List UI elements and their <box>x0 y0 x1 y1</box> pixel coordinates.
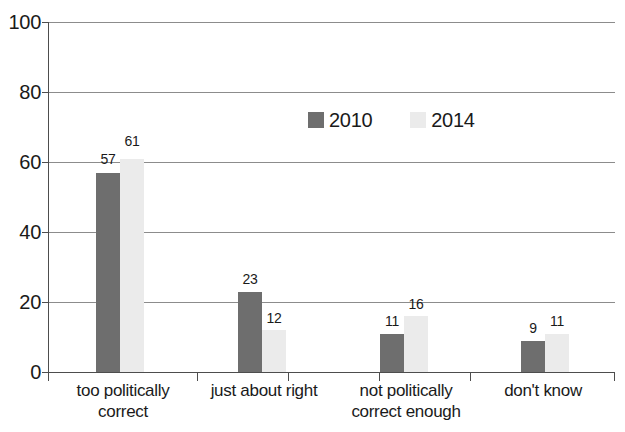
legend-item-2014[interactable]: 2014 <box>410 110 474 130</box>
category-label-too-politically-correct: too politically correct <box>53 380 193 422</box>
bar-2010-just-about-right <box>238 292 262 373</box>
value-label-2014-g3: 16 <box>398 297 434 311</box>
value-label-2014-g1: 61 <box>114 134 150 148</box>
bar-chart: 100 80 60 40 20 0 57 61 23 12 <box>0 0 625 432</box>
value-label-2014-g2: 12 <box>256 311 292 325</box>
xtick-mark-right-end <box>614 372 615 381</box>
chart-legend: 2010 2014 <box>308 110 475 130</box>
bar-2010-too-politically-correct <box>96 173 120 373</box>
x-axis-line <box>48 372 615 373</box>
bar-2014-too-politically-correct <box>120 159 144 373</box>
xtick-mark-left-end <box>48 372 49 381</box>
value-label-2010-g2: 23 <box>232 272 268 286</box>
category-label-dont-know: don't know <box>473 380 613 401</box>
category-label-just-about-right: just about right <box>192 380 336 401</box>
bar-2014-dont-know <box>545 334 569 373</box>
category-label-line-1: not politically <box>333 380 479 401</box>
legend-label-2010: 2010 <box>329 110 372 130</box>
category-label-line-1: just about right <box>192 380 336 401</box>
bar-2014-just-about-right <box>262 330 286 372</box>
category-label-line-2: correct <box>53 401 193 422</box>
category-label-line-1: don't know <box>473 380 613 401</box>
legend-item-2010[interactable]: 2010 <box>308 110 372 130</box>
dark-gray-swatch-icon <box>308 112 324 128</box>
value-label-2010-g1: 57 <box>90 152 126 166</box>
light-gray-swatch-icon <box>410 112 426 128</box>
category-label-line-2: correct enough <box>333 401 479 422</box>
value-label-2010-g3: 11 <box>374 314 410 328</box>
bar-2010-not-politically-correct-enough <box>380 334 404 373</box>
value-label-2014-g4: 11 <box>539 314 575 328</box>
legend-label-2014: 2014 <box>431 110 474 130</box>
bar-2010-dont-know <box>521 341 545 373</box>
category-label-not-politically-correct-enough: not politically correct enough <box>333 380 479 422</box>
category-label-line-1: too politically <box>53 380 193 401</box>
